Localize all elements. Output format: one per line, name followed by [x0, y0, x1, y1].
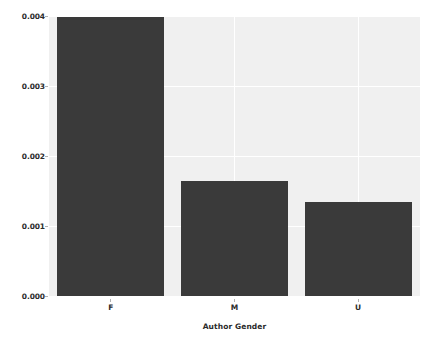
y-tick-mark — [45, 86, 48, 87]
x-tick-mark — [110, 299, 111, 302]
y-tick-mark — [45, 156, 48, 157]
bar-M — [181, 181, 288, 296]
y-tick-label: 0.000 — [1, 292, 45, 301]
x-tick-mark — [234, 299, 235, 302]
x-tick-label: M — [231, 303, 238, 312]
chart-figure: Mean Proportion 0.0000.0010.0020.0030.00… — [0, 0, 436, 343]
plot-area — [49, 16, 420, 296]
bar-F — [57, 17, 164, 296]
y-axis-ticklabels: 0.0000.0010.0020.0030.004 — [0, 16, 45, 296]
y-tick-label: 0.003 — [1, 82, 45, 91]
x-tick-label: F — [108, 303, 113, 312]
y-tick-label: 0.004 — [1, 12, 45, 21]
y-tick-label: 0.001 — [1, 222, 45, 231]
x-tick-label: U — [355, 303, 361, 312]
bar-U — [305, 202, 412, 297]
x-axis-title: Author Gender — [49, 322, 420, 331]
x-tick-mark — [358, 299, 359, 302]
y-tick-label: 0.002 — [1, 152, 45, 161]
x-axis-ticks: FMU — [49, 299, 420, 315]
y-tick-mark — [45, 226, 48, 227]
y-tick-mark — [45, 296, 48, 297]
y-tick-mark — [45, 16, 48, 17]
